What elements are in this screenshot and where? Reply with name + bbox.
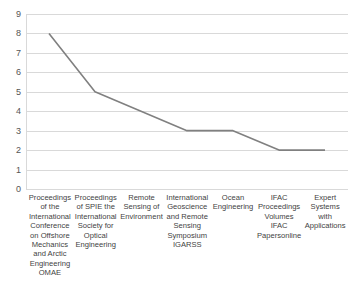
x-category-label-1: Proceedings of the International Confere… xyxy=(27,193,73,278)
x-category-label-6: IFAC Proceedings Volumes IFAC Papersonli… xyxy=(256,193,302,240)
y-tick-label-7: 7 xyxy=(16,48,21,57)
y-tick-label-5: 5 xyxy=(16,87,21,96)
y-tick-label-6: 6 xyxy=(16,68,21,77)
x-category-label-3: Remote Sensing of Environment xyxy=(119,193,165,221)
y-tick-label-9: 9 xyxy=(16,10,21,19)
x-category-label-4: International Geoscience and Remote Sens… xyxy=(164,193,210,249)
y-tick-label-2: 2 xyxy=(16,146,21,155)
y-tick-label-0: 0 xyxy=(16,185,21,194)
series-polyline-path xyxy=(49,33,325,150)
y-axis-tick-labels: 9876543210 xyxy=(0,14,21,189)
x-category-label-5: Ocean Engineering xyxy=(210,193,256,212)
series-line xyxy=(26,14,348,189)
y-tick-label-8: 8 xyxy=(16,29,21,38)
y-tick-label-3: 3 xyxy=(16,126,21,135)
x-category-label-2: Proceedings of SPIE the International So… xyxy=(73,193,119,249)
x-category-label-7: Expert Systems with Applications xyxy=(302,193,348,231)
x-axis-category-labels: Proceedings of the International Confere… xyxy=(27,193,348,278)
gridline-0 xyxy=(26,189,348,190)
y-tick-label-1: 1 xyxy=(16,165,21,174)
line-chart: 9876543210 Proceedings of the Internatio… xyxy=(0,0,357,290)
plot-area xyxy=(26,14,348,189)
y-tick-label-4: 4 xyxy=(16,107,21,116)
